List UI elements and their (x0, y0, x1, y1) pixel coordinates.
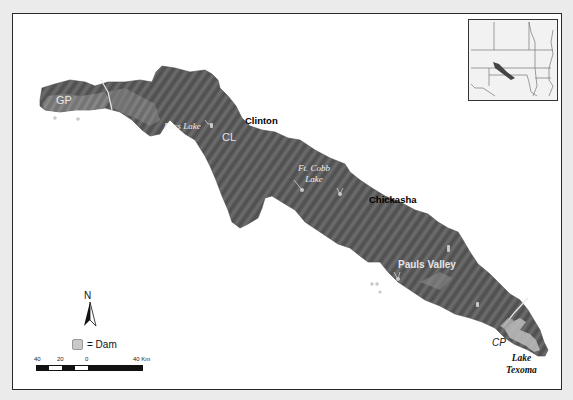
scale-tick-label: 20 (57, 356, 64, 362)
dam-marker (375, 282, 379, 286)
scale-bar (36, 365, 143, 371)
north-arrow-icon (84, 302, 96, 326)
lake-label-ft-cobb-line2: Lake (298, 174, 330, 185)
lake-label-texoma-line2: Texoma (506, 364, 537, 376)
dam-swatch-icon (72, 339, 83, 350)
city-label-pauls-valley: Pauls Valley (398, 260, 456, 270)
region-label-cl: CL (222, 132, 236, 143)
region-label-cp: CP (492, 338, 506, 348)
legend-dam-label: = Dam (87, 339, 117, 350)
dam-marker (76, 117, 80, 121)
lake-label-ft-cobb: Ft. Cobb Lake (298, 163, 330, 185)
scale-tick-label: 40 (34, 356, 41, 362)
dam-marker (53, 116, 57, 120)
inset-locator-map (468, 19, 558, 101)
inset-states-svg (469, 20, 557, 100)
city-label-chickasha: Chickasha (369, 195, 417, 205)
lake-label-ft-cobb-line1: Ft. Cobb (298, 163, 330, 174)
lake-label-foss: Foss Lake (164, 122, 201, 131)
dam-marker (447, 245, 450, 252)
north-label: N (84, 290, 91, 301)
dam-marker (476, 302, 479, 307)
lake-label-texoma: Lake Texoma (506, 352, 537, 376)
scale-tick-label: 0 (85, 356, 88, 362)
scale-tick-label: 40 Km (133, 356, 150, 362)
dam-marker (370, 282, 374, 286)
lake-label-texoma-line1: Lake (506, 352, 537, 364)
region-label-gp: GP (56, 95, 72, 106)
city-label-clinton: Clinton (245, 116, 278, 126)
dam-marker (378, 290, 381, 293)
legend-dam: = Dam (72, 339, 117, 350)
